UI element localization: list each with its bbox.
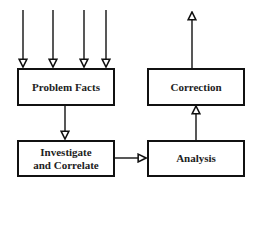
node-label: Analysis bbox=[176, 152, 216, 165]
node-label: Investigate and Correlate bbox=[33, 146, 99, 172]
node-problem-facts: Problem Facts bbox=[17, 68, 115, 106]
node-label: Problem Facts bbox=[32, 81, 100, 94]
node-label: Correction bbox=[170, 81, 221, 94]
node-correction: Correction bbox=[147, 68, 245, 106]
node-analysis: Analysis bbox=[147, 140, 245, 177]
node-investigate-and-correlate: Investigate and Correlate bbox=[17, 140, 115, 177]
